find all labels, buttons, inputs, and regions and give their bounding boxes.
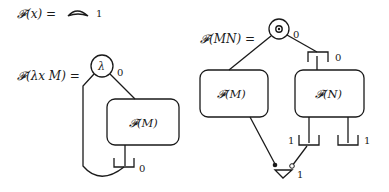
application-rule-lhs: 𝓕(MN) = (200, 32, 255, 46)
bracket-top-port-label: 0 (335, 52, 341, 63)
lambda-port-label: 0 (117, 67, 123, 78)
abstraction-rule-lhs: 𝓕(λx M) = (17, 69, 80, 83)
argument-box-label: 𝓕(N) (315, 87, 342, 101)
auxiliary-port-dot (290, 164, 295, 169)
function-output-edge (250, 117, 275, 164)
variable-rule-lhs: 𝓕(x) = (17, 7, 56, 21)
variable-port-label: 1 (96, 8, 102, 19)
function-box-label: 𝓕(M) (217, 87, 246, 101)
bracket-to-croissant-edge (292, 146, 307, 166)
weakening-bracket (114, 158, 134, 167)
binding-loop-edge (83, 74, 124, 176)
argument-bracket-top (308, 52, 328, 62)
at-symbol-dot (278, 28, 280, 30)
mid-bracket-port-label: 1 (288, 135, 294, 146)
diagram-canvas: 𝓕(x) = 1 𝓕(λx M) = λ 0 𝓕(M) 0 𝓕(MN) = 0 … (0, 0, 389, 192)
abstraction-box-label: 𝓕(M) (129, 116, 158, 130)
app-argument-edge (287, 35, 317, 52)
half-moon-node-icon (68, 11, 88, 16)
croissant-node (275, 170, 292, 178)
principal-port-dot (273, 163, 278, 168)
croissant-port-label: 1 (297, 169, 303, 180)
lambda-symbol: λ (97, 60, 105, 73)
right-bracket-port-label: 1 (364, 135, 370, 146)
weakening-port-label: 0 (139, 163, 145, 174)
